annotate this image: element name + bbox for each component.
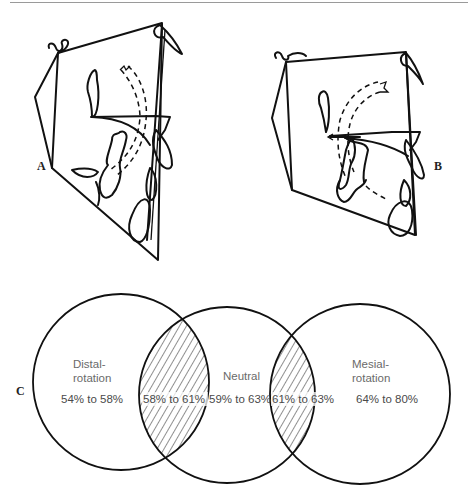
label-mesial-line1: Mesial- [352,358,389,370]
venn-diagram: Distal- rotation 54% to 58% Neutral 59% … [16,294,450,484]
range-mesial: 64% to 80% [356,393,418,405]
figure-canvas: A B [0,0,468,501]
label-distal-line1: Distal- [73,358,106,370]
range-overlap-distal-neutral: 58% to 61% [143,393,205,405]
panel-letter-a: A [37,159,46,173]
range-overlap-neutral-mesial: 61% to 63% [272,393,334,405]
panel-b-tracing: B [272,52,442,236]
panel-letter-b: B [434,159,442,173]
range-neutral: 59% to 63% [209,393,271,405]
range-distal: 54% to 58% [61,393,123,405]
panel-letter-c: C [16,384,25,398]
panel-a-tracing: A [35,23,182,260]
label-neutral: Neutral [223,370,260,382]
label-mesial-line2: rotation [352,372,390,384]
label-distal-line2: rotation [73,372,111,384]
